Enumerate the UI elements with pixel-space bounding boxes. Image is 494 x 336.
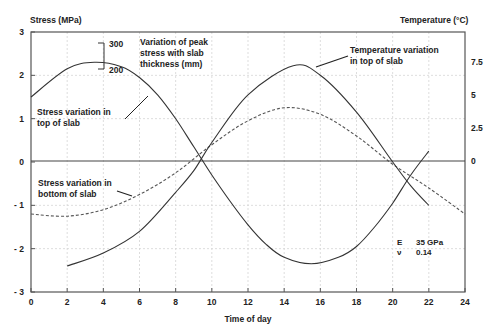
x-tick-label: 4: [101, 297, 106, 307]
temp-note-leader: [316, 56, 348, 67]
peak-note-line-3: thickness (mm): [140, 59, 203, 69]
y-tick-label: 0: [19, 157, 24, 167]
y-tick-label: - 3: [14, 287, 24, 297]
y2-tick-label: 5: [471, 90, 476, 100]
bracket-300-label: 300: [109, 39, 123, 49]
x-tick-label: 14: [279, 297, 289, 307]
x-tick-label: 24: [460, 297, 470, 307]
y-tick-label: 3: [19, 27, 24, 37]
x-tick-label: 2: [65, 297, 70, 307]
y-tick-label: - 1: [14, 200, 24, 210]
top-note-leader: [125, 96, 148, 119]
y2-tick-label: 7.5: [471, 57, 483, 67]
bottom-note-line-2: bottom of slab: [38, 189, 97, 199]
x-tick-label: 6: [137, 297, 142, 307]
poisson-value: 0.14: [416, 248, 432, 257]
modulus-value: 35 GPa: [416, 238, 444, 247]
x-tick-label: 22: [424, 297, 434, 307]
temp-note-line-1: Temperature variation: [350, 45, 439, 55]
y2-axis-ticks: 7.552.50: [471, 57, 483, 166]
peak-note-line-1: Variation of peak: [140, 37, 208, 47]
stress-temperature-chart: 024681012141618202224 3210- 1- 2- 3 7.55…: [0, 0, 494, 336]
x-tick-label: 8: [173, 297, 178, 307]
temp-note-line-2: in top of slab: [350, 56, 403, 66]
x-tick-label: 18: [352, 297, 362, 307]
top-note-line-1: Stress variation in: [37, 107, 111, 117]
x-tick-label: 16: [316, 297, 326, 307]
x-tick-label: 20: [388, 297, 398, 307]
y-tick-label: - 2: [14, 244, 24, 254]
bottom-note-line-1: Stress variation in: [38, 178, 112, 188]
peak-note-line-2: stress with slab: [140, 48, 204, 58]
x-tick-label: 10: [207, 297, 217, 307]
y-axis-label: Stress (MPa): [30, 15, 82, 25]
y2-axis-label: Temperature (°C): [400, 15, 469, 25]
poisson-symbol: ν: [397, 248, 402, 257]
y2-tick-label: 0: [471, 156, 476, 166]
y-tick-label: 1: [19, 114, 24, 124]
top-note-line-2: top of slab: [37, 118, 80, 128]
stress-top-line: [31, 62, 429, 264]
y-tick-label: 2: [19, 70, 24, 80]
y2-tick-label: 2.5: [471, 123, 483, 133]
modulus-symbol: E: [397, 238, 403, 247]
x-tick-label: 12: [243, 297, 253, 307]
x-tick-label: 0: [29, 297, 34, 307]
x-axis-ticks: 024681012141618202224: [29, 288, 470, 307]
bottom-note-leader: [117, 191, 132, 196]
x-axis-label: Time of day: [224, 314, 271, 324]
bracket-200-label: 200: [109, 65, 123, 75]
y-axis-ticks: 3210- 1- 2- 3: [14, 27, 35, 297]
